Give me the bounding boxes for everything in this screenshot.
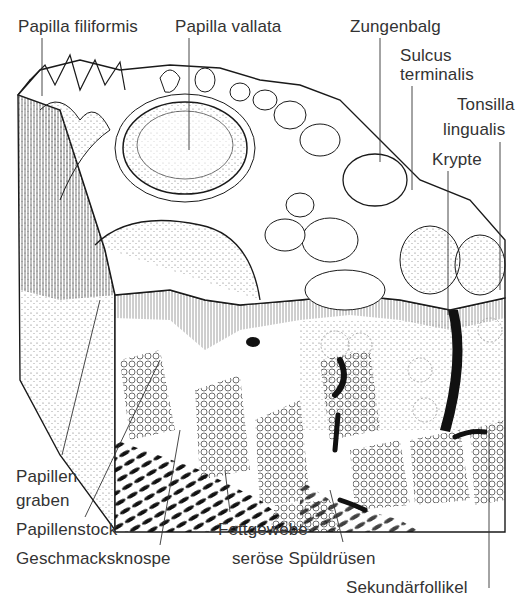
label-papilla-filiformis: Papilla filiformis xyxy=(18,17,138,36)
label-seroese-spueldruesen: seröse Spüldrüsen xyxy=(232,549,375,568)
label-zungenbalg: Zungenbalg xyxy=(350,17,441,36)
label-papillen-line1: Papillen xyxy=(16,467,77,486)
label-papillen-line2: graben xyxy=(16,491,70,510)
label-papillenstock: Papillenstock xyxy=(16,520,117,539)
label-tonsilla-line2: lingualis xyxy=(443,120,505,139)
block-front-face xyxy=(115,290,505,532)
tongue-block-drawing xyxy=(0,0,529,602)
anatomical-figure: Papilla filiformis Papilla vallata Zunge… xyxy=(0,0,529,602)
label-sulcus-line2: terminalis xyxy=(400,65,474,84)
label-krypte: Krypte xyxy=(432,150,482,169)
label-tonsilla-line1: Tonsilla xyxy=(457,95,515,114)
label-sekundaerfollikel: Sekundärfollikel xyxy=(346,578,468,597)
label-fettgewebe: Fettgewebe xyxy=(218,520,308,539)
label-geschmacksknospe: Geschmacksknospe xyxy=(16,549,171,568)
label-papilla-vallata: Papilla vallata xyxy=(175,17,281,36)
label-sulcus-line1: Sulcus xyxy=(400,46,452,65)
